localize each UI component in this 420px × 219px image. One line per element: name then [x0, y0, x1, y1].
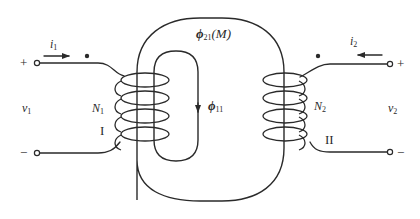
primary-polarity-dot-icon: [85, 54, 89, 58]
secondary-plus-label: +: [397, 56, 404, 71]
primary-plus-label: +: [20, 55, 27, 70]
mutual-flux-label: ϕ21(M): [196, 26, 231, 42]
primary-minus-label: −: [20, 145, 27, 160]
leakage-flux-label: ϕ11: [208, 98, 223, 114]
secondary-minus-terminal[interactable]: [387, 149, 392, 154]
primary-minus-terminal[interactable]: [34, 150, 39, 155]
secondary-current-label: i2: [350, 34, 357, 49]
primary-current-label: i1: [50, 37, 57, 52]
primary-coil: [40, 63, 169, 153]
transformer-diagram: + − i1 v1 N1 I + − i2 v2 N2 II ϕ21(M) ϕ1…: [0, 0, 420, 219]
secondary-minus-label: −: [397, 145, 404, 160]
secondary-voltage-label: v2: [388, 101, 397, 116]
secondary-plus-terminal[interactable]: [387, 61, 392, 66]
primary-voltage-label: v1: [22, 101, 31, 116]
primary-plus-terminal[interactable]: [34, 60, 39, 65]
primary-coil-id-label: I: [100, 123, 104, 138]
secondary-polarity-dot-icon: [316, 54, 320, 58]
leakage-flux-loop: [154, 51, 198, 161]
primary-turns-label: N1: [91, 101, 104, 116]
secondary-coil-id-label: II: [325, 132, 334, 147]
secondary-turns-label: N2: [313, 99, 326, 114]
